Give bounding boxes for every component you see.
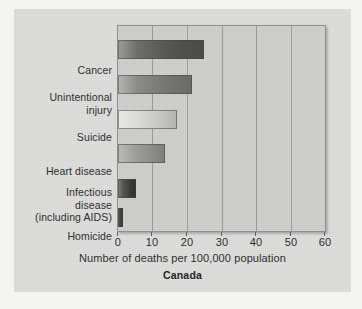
x-ticklabel-60: 60 [319,236,332,248]
y-axis-labels: Cancer Unintentional injury Suicide Hear… [0,25,112,232]
bar-heart-disease [118,144,165,163]
plot-area [117,25,326,232]
gridline-30 [222,26,223,231]
x-ticklabel-50: 50 [285,236,298,248]
y-axis-label-suicide: Suicide [77,131,112,144]
x-ticklabel-0: 0 [115,236,121,248]
y-axis-label-cancer: Cancer [78,64,112,77]
bar-homicide [118,208,123,227]
x-axis-tick-labels: 0 10 20 30 40 50 60 [0,236,362,251]
x-ticklabel-10: 10 [146,236,159,248]
y-axis-label-heart-disease: Heart disease [46,165,112,178]
x-ticklabel-40: 40 [250,236,263,248]
x-ticklabel-20: 20 [181,236,194,248]
gridline-40 [256,26,257,231]
bar-suicide [118,110,177,129]
gridline-50 [291,26,292,231]
y-axis-label-unintentional-injury: Unintentional injury [49,91,112,116]
x-ticklabel-30: 30 [216,236,229,248]
y-axis-label-infectious-disease: Infectious disease (including AIDS) [35,186,112,224]
bar-cancer [118,40,204,59]
chart-subtitle: Canada [14,269,351,281]
chart-figure: Cancer Unintentional injury Suicide Hear… [0,0,362,309]
x-axis-title: Number of deaths per 100,000 population [14,252,351,264]
bar-unintentional-injury [118,75,192,94]
bar-infectious-disease [118,179,136,198]
